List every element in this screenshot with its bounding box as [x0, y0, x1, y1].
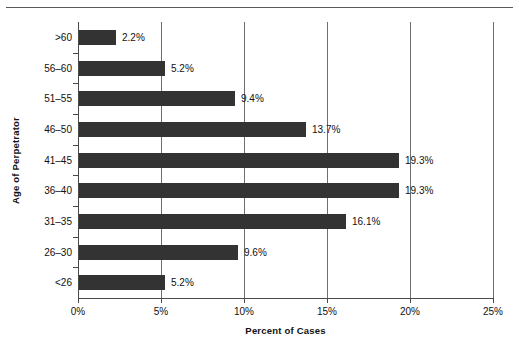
- y-tick-4: [73, 145, 78, 146]
- x-tick-0%: [78, 298, 79, 303]
- bar-value-label-51–55: 9.4%: [241, 91, 264, 106]
- bar-51–55[interactable]: [79, 91, 235, 106]
- bar-chart-figure: Age of Perpetrator <2626–3031–3536–4041–…: [0, 0, 519, 351]
- plot-area: 5.2%9.6%16.1%19.3%19.3%13.7%9.4%5.2%2.2%: [78, 22, 493, 298]
- x-tick-label-20%: 20%: [380, 306, 440, 317]
- bar->60[interactable]: [79, 30, 116, 45]
- bar-41–45[interactable]: [79, 153, 399, 168]
- y-category-label-<26: <26: [2, 275, 72, 290]
- y-tick-2: [73, 83, 78, 84]
- x-tick-label-0%: 0%: [48, 306, 108, 317]
- y-category-label-41–45: 41–45: [2, 153, 72, 168]
- bar-value-label->60: 2.2%: [122, 30, 145, 45]
- bar-value-label-46–50: 13.7%: [312, 122, 340, 137]
- bar-36–40[interactable]: [79, 183, 399, 198]
- y-tick-7: [73, 237, 78, 238]
- x-tick-label-25%: 25%: [463, 306, 519, 317]
- x-tick-25%: [493, 298, 494, 303]
- y-category-label-36–40: 36–40: [2, 183, 72, 198]
- bar-56–60[interactable]: [79, 61, 165, 76]
- y-category-label-51–55: 51–55: [2, 91, 72, 106]
- top-divider-rule: [6, 7, 513, 8]
- y-axis-category-labels: <2626–3031–3536–4041–4546–5051–5556–60>6…: [0, 22, 72, 298]
- bar-46–50[interactable]: [79, 122, 306, 137]
- x-tick-10%: [244, 298, 245, 303]
- y-category-label-56–60: 56–60: [2, 61, 72, 76]
- x-tick-20%: [410, 298, 411, 303]
- x-axis-line: [78, 298, 494, 299]
- y-tick-6: [73, 206, 78, 207]
- bar-value-label-36–40: 19.3%: [405, 183, 433, 198]
- bar-26–30[interactable]: [79, 245, 238, 260]
- bar-value-label-41–45: 19.3%: [405, 153, 433, 168]
- x-tick-5%: [161, 298, 162, 303]
- bar-value-label-<26: 5.2%: [171, 275, 194, 290]
- y-category-label-26–30: 26–30: [2, 245, 72, 260]
- x-tick-label-15%: 15%: [297, 306, 357, 317]
- y-category-label-31–35: 31–35: [2, 214, 72, 229]
- y-tick-3: [73, 114, 78, 115]
- bar-<26[interactable]: [79, 275, 165, 290]
- bar-31–35[interactable]: [79, 214, 346, 229]
- bar-value-label-26–30: 9.6%: [244, 245, 267, 260]
- bar-value-label-31–35: 16.1%: [352, 214, 380, 229]
- x-axis-title: Percent of Cases: [78, 325, 493, 336]
- bar-value-label-56–60: 5.2%: [171, 61, 194, 76]
- x-tick-label-10%: 10%: [214, 306, 274, 317]
- y-category-label-46–50: 46–50: [2, 122, 72, 137]
- gridline-25%: [493, 22, 494, 298]
- y-category-label->60: >60: [2, 30, 72, 45]
- y-tick-8: [73, 267, 78, 268]
- y-tick-1: [73, 53, 78, 54]
- x-tick-label-5%: 5%: [131, 306, 191, 317]
- x-tick-15%: [327, 298, 328, 303]
- y-tick-5: [73, 175, 78, 176]
